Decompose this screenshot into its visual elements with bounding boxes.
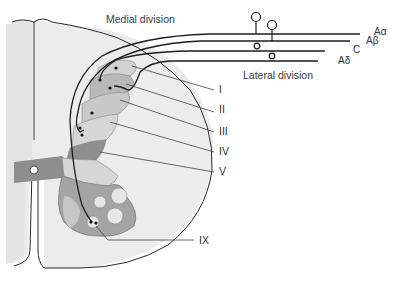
motor-pool-1 [94,196,106,208]
cell-body-a-delta [269,53,275,59]
cell-body-a-beta [268,21,277,30]
lamina-label-4: IV [219,146,229,157]
medial-division-label: Medial division [106,14,175,25]
lamina-label-5: V [219,166,226,177]
lamina-label-3: III [219,126,228,137]
spinal-cord-diagram: Medial division Lateral division Aα Aβ C… [0,0,399,282]
cell-body-a-alpha [252,13,261,22]
lamina-label-2: II [219,104,225,115]
cell-body-c [254,43,260,49]
fiber-label-a-beta: Aβ [366,36,378,46]
motor-pool-3 [107,208,123,224]
motor-pool-2 [111,188,127,204]
lamina-label-1: I [219,84,222,95]
fiber-label-c: C [353,45,360,55]
fiber-label-a-delta: Aδ [338,56,350,66]
drg-cells [252,13,277,59]
lamina-label-9: IX [199,235,209,246]
central-canal [30,166,38,174]
lateral-division-label: Lateral division [243,70,313,81]
